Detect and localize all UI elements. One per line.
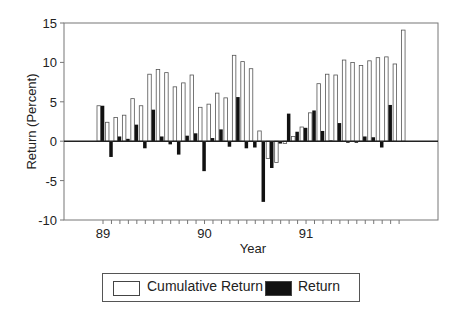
bar-cumulative-return — [105, 122, 109, 141]
bar-return — [143, 141, 147, 148]
x-tick-label: 89 — [96, 226, 110, 241]
bar-cumulative-return — [275, 141, 279, 162]
bar-cumulative-return — [309, 113, 313, 141]
bar-cumulative-return — [393, 64, 397, 141]
bar-cumulative-return — [402, 30, 406, 141]
bar-return — [338, 123, 342, 141]
y-tick-label: 10 — [43, 55, 57, 70]
bar-return — [185, 136, 189, 142]
legend: Cumulative Return Return — [102, 273, 360, 302]
y-tick-label: 15 — [43, 16, 57, 31]
bar-return — [135, 125, 139, 142]
bar-return — [219, 129, 223, 141]
bar-cumulative-return — [97, 106, 101, 141]
bar-cumulative-return — [182, 83, 186, 141]
legend-label-return: Return — [298, 278, 340, 294]
bar-cumulative-return — [215, 93, 219, 141]
bar-cumulative-return — [139, 106, 143, 141]
bar-return — [245, 141, 249, 148]
bar-cumulative-return — [334, 75, 338, 141]
legend-swatch-cumulative — [113, 281, 140, 296]
bar-cumulative-return — [156, 69, 160, 141]
y-axis-label: Return (Percent) — [24, 73, 39, 169]
bar-cumulative-return — [351, 62, 355, 141]
bar-cumulative-return — [300, 127, 304, 141]
bar-cumulative-return — [266, 141, 270, 158]
y-tick-label: 0 — [50, 134, 57, 149]
bar-return — [160, 136, 164, 141]
bar-cumulative-return — [385, 57, 389, 141]
bar-cumulative-return — [165, 73, 169, 142]
bar-cumulative-return — [368, 61, 372, 141]
bar-cumulative-return — [249, 69, 253, 141]
bar-return — [202, 141, 206, 171]
bar-return — [295, 132, 299, 141]
bar-return — [253, 141, 257, 147]
y-tick-label: -5 — [45, 174, 57, 189]
bar-cumulative-return — [122, 115, 126, 141]
bar-return — [101, 106, 105, 141]
legend-label-cumulative: Cumulative Return — [147, 278, 263, 294]
bar-cumulative-return — [317, 84, 321, 142]
bar-return — [287, 114, 291, 142]
x-axis-label: Year — [240, 241, 267, 256]
bar-cumulative-return — [292, 136, 296, 141]
bar-cumulative-return — [173, 87, 177, 141]
chart: 151050-5-10Return (Percent)899091Year — [0, 0, 458, 270]
bar-cumulative-return — [376, 58, 380, 142]
x-tick-label: 90 — [197, 226, 211, 241]
bar-return — [380, 141, 384, 147]
bar-return — [388, 105, 392, 141]
bar-return — [118, 136, 122, 141]
bar-cumulative-return — [258, 131, 262, 141]
bar-return — [321, 131, 325, 141]
bar-return — [228, 141, 232, 147]
bar-cumulative-return — [131, 99, 135, 142]
bar-cumulative-return — [325, 74, 329, 141]
x-tick-label: 91 — [299, 226, 313, 241]
bar-cumulative-return — [148, 74, 152, 141]
legend-swatch-return — [265, 281, 292, 296]
bar-return — [312, 110, 316, 141]
bar-return — [270, 141, 274, 168]
bar-return — [109, 141, 113, 157]
y-tick-label: 5 — [50, 95, 57, 110]
bar-cumulative-return — [199, 107, 203, 141]
bar-return — [262, 141, 266, 202]
bar-cumulative-return — [232, 55, 236, 141]
bar-cumulative-return — [207, 104, 211, 141]
bar-return — [363, 136, 367, 141]
bar-return — [236, 97, 240, 141]
bar-return — [177, 141, 181, 154]
bar-cumulative-return — [241, 62, 245, 142]
bar-cumulative-return — [190, 75, 194, 141]
y-tick-label: -10 — [38, 213, 57, 228]
bar-return — [304, 128, 308, 141]
bar-cumulative-return — [114, 118, 118, 142]
bar-cumulative-return — [224, 98, 228, 141]
bar-cumulative-return — [342, 60, 346, 141]
bar-cumulative-return — [359, 66, 363, 142]
bar-return — [152, 110, 156, 142]
bar-return — [194, 133, 198, 141]
